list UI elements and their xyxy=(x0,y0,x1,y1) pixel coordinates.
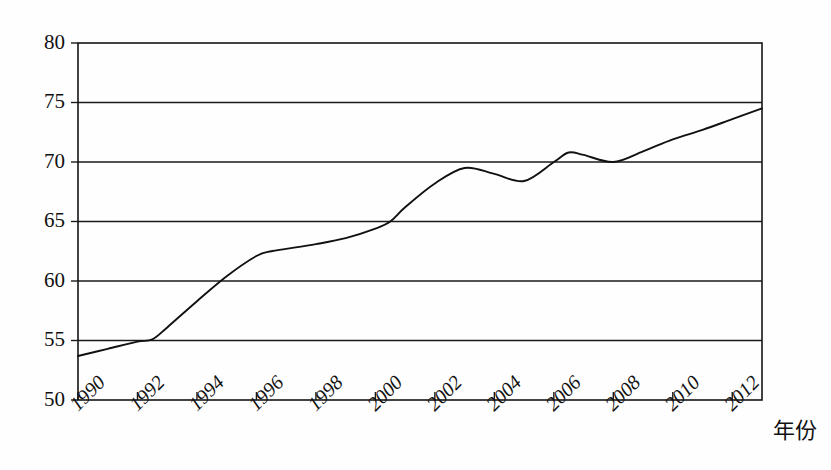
gridlines xyxy=(78,103,762,341)
x-axis-tick-labels: 1990199219941996199820002002200420062008… xyxy=(65,371,763,415)
x-tick-label: 2010 xyxy=(660,371,704,415)
x-tick-label: 2000 xyxy=(363,371,407,415)
line-chart: 50556065707580 1990199219941996199820002… xyxy=(0,0,831,470)
y-tick-label: 70 xyxy=(44,149,65,173)
x-tick-label: 1996 xyxy=(244,371,288,415)
x-axis-title: 年份 xyxy=(773,418,817,443)
x-tick-label: 2012 xyxy=(720,371,764,415)
y-tick-label: 50 xyxy=(44,387,65,411)
x-tick-label: 2006 xyxy=(541,371,585,415)
y-tick-label: 60 xyxy=(44,268,65,292)
y-tick-label: 75 xyxy=(44,89,65,113)
x-tick-label: 2004 xyxy=(482,371,526,415)
x-tick-label: 2002 xyxy=(422,371,466,415)
y-tick-label: 80 xyxy=(44,30,65,54)
y-tick-label: 55 xyxy=(44,327,65,351)
x-tick-label: 2008 xyxy=(601,371,645,415)
x-tick-label: 1998 xyxy=(303,371,347,415)
data-series-line xyxy=(78,108,762,356)
x-tick-label: 1990 xyxy=(65,371,109,415)
y-tick-label: 65 xyxy=(44,208,65,232)
x-tick-label: 1994 xyxy=(184,371,228,415)
chart-container: 50556065707580 1990199219941996199820002… xyxy=(0,0,831,470)
y-axis-tick-labels: 50556065707580 xyxy=(44,30,78,411)
x-tick-label: 1992 xyxy=(125,371,169,415)
